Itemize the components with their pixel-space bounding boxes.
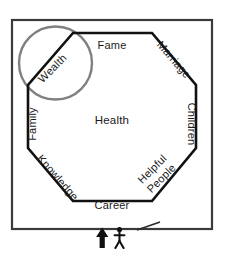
- up-arrow-icon: [96, 228, 108, 249]
- area-label-knowledge: Knowledge: [35, 152, 81, 202]
- bagua-map-diagram: Fame Wealth Marriage Children Family Kno…: [0, 0, 228, 257]
- bagua-diagram-canvas: Fame Wealth Marriage Children Family Kno…: [0, 0, 228, 257]
- area-label-career: Career: [95, 199, 130, 211]
- area-label-children: Children: [186, 103, 198, 146]
- area-label-marriage: Marriage: [155, 38, 194, 80]
- area-label-family: Family: [26, 107, 38, 141]
- area-label-fame: Fame: [98, 39, 127, 51]
- center-label-health: Health: [95, 114, 129, 126]
- area-label-helpful-people: Helpful People: [135, 152, 178, 195]
